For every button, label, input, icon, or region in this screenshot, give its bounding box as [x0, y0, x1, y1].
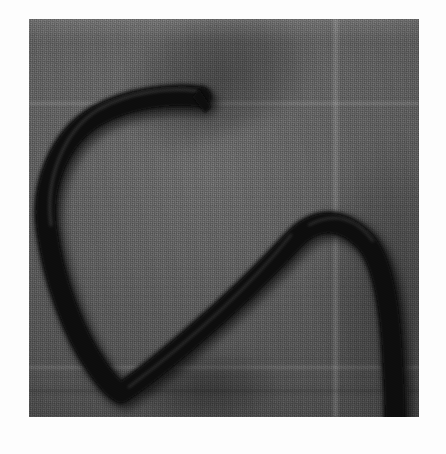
- photo-frame: [0, 0, 446, 454]
- rope-shape: [29, 19, 419, 417]
- photograph-print: [29, 19, 419, 417]
- rope-body: [46, 96, 395, 417]
